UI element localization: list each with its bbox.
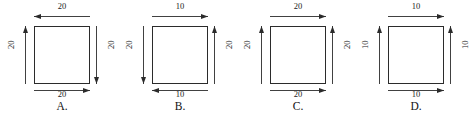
dimension-label-right-a: 20 bbox=[107, 41, 116, 50]
square-diagram-a: 20 20 20 20 bbox=[0, 0, 118, 100]
dimension-label-top-a: 20 bbox=[34, 2, 90, 11]
square-diagram-c: 20 20 20 20 bbox=[236, 0, 354, 100]
dimension-label-bottom-c: 20 bbox=[270, 90, 326, 99]
dimension-arrow-top-b bbox=[151, 11, 209, 22]
dimension-arrow-left-b bbox=[138, 25, 149, 85]
dimension-label-right-b: 20 bbox=[225, 41, 234, 50]
dimension-label-top-b: 10 bbox=[152, 2, 208, 11]
square-diagram-b: 10 20 20 10 bbox=[118, 0, 236, 100]
dimension-arrow-top-d bbox=[387, 11, 445, 22]
square-outline-b bbox=[152, 26, 208, 84]
choice-label-c: C. bbox=[270, 101, 326, 113]
dimension-arrow-right-a bbox=[91, 25, 102, 85]
square-outline-c bbox=[270, 26, 326, 84]
dimension-arrow-left-d bbox=[374, 25, 385, 85]
dimension-label-bottom-a: 20 bbox=[34, 90, 90, 99]
answer-choice-d[interactable]: 10 10 10 10 D. bbox=[354, 0, 472, 123]
answer-choice-b[interactable]: 10 20 20 10 B. bbox=[118, 0, 236, 123]
dimension-arrow-top-c bbox=[269, 11, 327, 22]
dimension-label-top-c: 20 bbox=[270, 2, 326, 11]
answer-choice-c[interactable]: 20 20 20 20 C. bbox=[236, 0, 354, 123]
dimension-label-left-d: 10 bbox=[361, 41, 370, 50]
dimension-arrow-right-c bbox=[327, 25, 338, 85]
dimension-arrow-left-c bbox=[256, 25, 267, 85]
dimension-label-right-c: 20 bbox=[343, 41, 352, 50]
dimension-arrow-top-a bbox=[33, 11, 91, 22]
square-outline-a bbox=[34, 26, 90, 84]
dimension-arrow-right-d bbox=[445, 25, 456, 85]
dimension-label-left-a: 20 bbox=[7, 41, 16, 50]
square-diagram-d: 10 10 10 10 bbox=[354, 0, 472, 100]
choice-label-d: D. bbox=[388, 101, 444, 113]
answer-choice-row: 20 20 20 20 A. bbox=[0, 0, 475, 123]
dimension-label-bottom-b: 10 bbox=[152, 90, 208, 99]
dimension-label-top-d: 10 bbox=[388, 2, 444, 11]
dimension-arrow-left-a bbox=[20, 25, 31, 85]
choice-label-b: B. bbox=[152, 101, 208, 113]
square-outline-d bbox=[388, 26, 444, 84]
dimension-arrow-right-b bbox=[209, 25, 220, 85]
answer-choice-a[interactable]: 20 20 20 20 A. bbox=[0, 0, 118, 123]
dimension-label-right-d: 10 bbox=[461, 41, 470, 50]
choice-label-a: A. bbox=[34, 101, 90, 113]
dimension-label-left-b: 20 bbox=[125, 41, 134, 50]
dimension-label-left-c: 20 bbox=[243, 41, 252, 50]
dimension-label-bottom-d: 10 bbox=[388, 90, 444, 99]
